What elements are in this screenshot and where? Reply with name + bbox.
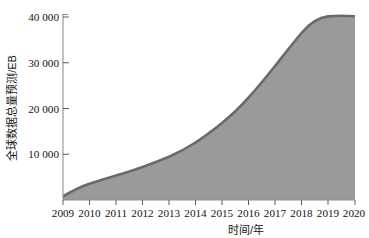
x-tick-label-2013: 2013 [158, 207, 181, 219]
y-axis-title: 全球数据总量预测/EB [5, 55, 18, 161]
y-tick-label-20000: 20 000 [28, 103, 59, 115]
x-tick-label-2012: 2012 [131, 207, 153, 219]
y-tick-label-40000: 40 000 [28, 11, 59, 23]
y-tick-label-10000: 10 000 [28, 148, 59, 160]
x-tick-label-2020: 2020 [343, 207, 366, 219]
chart-container: 40 000 30 000 20 000 10 000 2009 2010 20… [0, 0, 369, 238]
x-tick-label-2016: 2016 [237, 207, 260, 219]
x-tick-label-2014: 2014 [184, 207, 207, 219]
x-tick-label-2019: 2019 [317, 207, 340, 219]
x-tick-label-2017: 2017 [264, 207, 287, 219]
y-tick-label-30000: 30 000 [28, 57, 59, 69]
x-tick-label-2009: 2009 [52, 207, 75, 219]
global-data-volume-forecast-area-chart: 40 000 30 000 20 000 10 000 2009 2010 20… [0, 0, 369, 238]
x-tick-label-2011: 2011 [105, 207, 127, 219]
x-axis-title: 时间/年 [228, 223, 264, 236]
x-tick-label-2010: 2010 [78, 207, 101, 219]
x-tick-label-2018: 2018 [290, 207, 313, 219]
x-tick-label-2015: 2015 [211, 207, 234, 219]
